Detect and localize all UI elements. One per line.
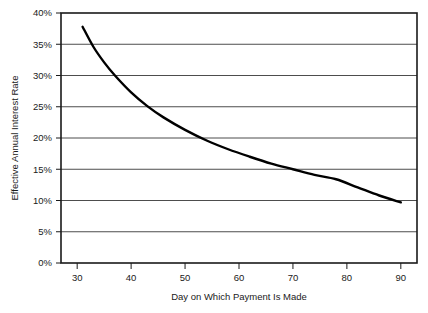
y-tick-label-0: 0% (38, 257, 52, 268)
x-tick-label-90: 90 (396, 272, 407, 283)
effective-annual-interest-rate-chart: 30405060708090 0%5%10%15%20%25%30%35%40%… (0, 0, 428, 313)
chart-background (0, 0, 428, 313)
chart-figure: 30405060708090 0%5%10%15%20%25%30%35%40%… (0, 0, 428, 313)
y-tick-label-25: 25% (33, 101, 53, 112)
y-tick-label-35: 35% (33, 39, 53, 50)
x-axis-title: Day on Which Payment Is Made (171, 291, 307, 302)
y-tick-label-20: 20% (33, 132, 53, 143)
x-tick-label-80: 80 (342, 272, 353, 283)
x-tick-label-30: 30 (72, 272, 83, 283)
x-tick-label-60: 60 (234, 272, 245, 283)
y-axis-title: Effective Annual Interest Rate (9, 76, 20, 201)
y-tick-label-10: 10% (33, 195, 53, 206)
y-tick-label-40: 40% (33, 7, 53, 18)
y-tick-label-5: 5% (38, 226, 52, 237)
x-tick-label-70: 70 (288, 272, 299, 283)
y-tick-label-30: 30% (33, 70, 53, 81)
x-tick-label-50: 50 (180, 272, 191, 283)
y-tick-label-15: 15% (33, 164, 53, 175)
x-tick-label-40: 40 (126, 272, 137, 283)
